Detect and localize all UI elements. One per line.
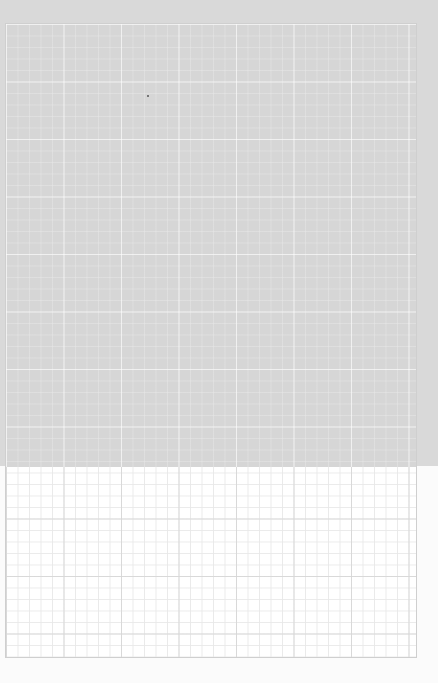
paper-speck [147, 95, 149, 97]
bright-grid-area [6, 467, 416, 658]
graph-paper-sheet [5, 23, 417, 658]
shaded-grid-area [6, 24, 416, 467]
